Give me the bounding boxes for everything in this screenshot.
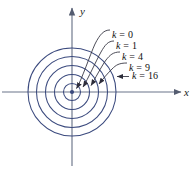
level-label-k16: k = 16 — [132, 71, 158, 81]
x-axis-label: x — [184, 87, 189, 98]
level-label-k4-value: = 4 — [129, 51, 143, 62]
level-label-k16-value: = 16 — [139, 70, 158, 81]
leader-line-k9 — [99, 63, 127, 84]
axis-group — [2, 8, 181, 166]
plot-canvas — [0, 0, 194, 170]
contour-plot-figure: y x k = 0 k = 1 k = 4 k = 9 k = 16 — [0, 0, 194, 170]
leader-line-k1 — [83, 41, 114, 87]
level-label-k0-value: = 0 — [119, 29, 133, 40]
level-label-k0-symbol: k — [112, 29, 117, 40]
level-label-k4-symbol: k — [122, 51, 127, 62]
y-axis-label: y — [80, 6, 85, 17]
level-label-k1-value: = 1 — [123, 40, 137, 51]
level-label-k16-symbol: k — [132, 70, 137, 81]
level-label-k1-symbol: k — [116, 40, 121, 51]
level-label-k4: k = 4 — [122, 52, 143, 62]
level-label-k0: k = 0 — [112, 30, 133, 40]
level-curve-k0-point — [70, 90, 74, 94]
level-label-k1: k = 1 — [116, 41, 137, 51]
